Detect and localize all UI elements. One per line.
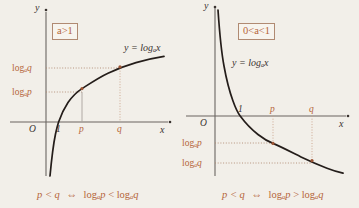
left-y-axis-label: y [35,2,39,13]
left-ylabel-logp-prefix: log [12,87,24,97]
left-curve-label-main: y = log [124,42,153,53]
right-condition-badge: 0<a<1 [238,23,275,40]
right-point-p [271,142,274,145]
left-curve-label: y = logax [124,42,161,53]
right-curve-label-main: y = log [232,57,261,68]
left-ylabel-logp: logap [12,87,32,97]
right-curve-label-tail: x [264,57,268,68]
left-ylabel-logp-arg: p [27,87,32,97]
left-ylabel-logq: logaq [12,63,32,73]
right-caption-iff: ⇔ [247,189,266,200]
right-condition-text: 0<a<1 [243,25,270,36]
right-caption-rhs-left: p [285,189,290,200]
right-caption-lhs: p < q [222,189,245,200]
right-xtick-1: 1 [238,104,243,114]
right-point-q [310,159,313,162]
right-y-axis-arrow [214,6,217,9]
right-ylabel-logq-prefix: log [182,158,194,168]
left-y-axis-arrow [45,9,48,12]
left-x-axis-arrow [169,121,172,124]
left-caption-rhs-prefix2: log [117,189,130,200]
right-xtick-p: p [270,104,275,114]
left-condition-badge: a>1 [52,23,78,40]
left-x-axis-label: x [160,124,164,135]
left-condition-text: a>1 [57,25,73,36]
logarithm-comparison-figure: y x a>1 y = logax logaq logap O 1 p q p … [0,0,359,208]
right-y-axis-label: y [204,0,208,11]
left-xtick-p: p [79,124,84,134]
right-x-axis-arrow [347,115,350,118]
left-caption-rhs-left: p [100,189,105,200]
right-caption-rhs-prefix: log [269,189,282,200]
right-ylabel-logp-prefix: log [182,138,194,148]
left-caption-iff: ⇔ [62,189,81,200]
right-x-axis-label: x [339,118,343,129]
right-origin-label: O [200,118,207,128]
left-caption-rhs-prefix: log [84,189,97,200]
right-caption-rhs-prefix2: log [302,189,315,200]
right-ylabel-logp: logap [182,138,202,148]
left-caption: p < q ⇔ logap < logaq [37,189,139,200]
right-xtick-q: q [309,104,314,114]
left-log-curve [50,56,164,176]
left-caption-rhs-rel: < [108,189,114,200]
left-point-q [118,65,121,68]
right-ylabel-logq: logaq [182,158,202,168]
left-origin-label: O [29,124,36,134]
left-caption-lhs: p < q [37,189,60,200]
right-caption-rhs-right: q [318,189,323,200]
left-ylabel-logq-prefix: log [12,63,24,73]
right-caption: p < q ⇔ logap > logaq [222,189,324,200]
right-log-curve [218,10,343,173]
left-point-p [80,87,83,90]
left-caption-rhs-right: q [133,189,138,200]
right-ylabel-logq-arg: q [197,158,202,168]
right-curve-label: y = logax [232,57,269,68]
right-caption-rhs-rel: > [293,189,299,200]
left-xtick-1: 1 [56,124,61,134]
left-ylabel-logq-arg: q [27,63,32,73]
left-xtick-q: q [117,124,122,134]
left-curve-label-tail: x [156,42,160,53]
right-ylabel-logp-arg: p [197,138,202,148]
